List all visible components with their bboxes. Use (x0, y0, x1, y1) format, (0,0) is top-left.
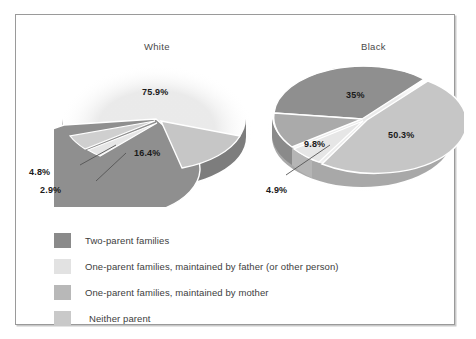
legend-swatch-father (54, 259, 71, 274)
pie-label-father-white: 2.9% (40, 185, 61, 195)
pie-title-black: Black (361, 41, 386, 52)
legend-swatch-neither (54, 311, 71, 326)
pie-label-mother-black: 50.3% (388, 130, 415, 140)
pie-chart-black (264, 57, 464, 207)
legend-item-father: One-parent families, maintained by fathe… (54, 253, 434, 279)
pie-chart-white (54, 57, 254, 207)
pie-label-father-black: 4.9% (266, 185, 287, 195)
pie-label-neither-black: 9.8% (304, 139, 325, 149)
legend-swatch-two-parent (54, 233, 71, 248)
pie-chart-figure: White (0, 0, 476, 339)
pie-label-two-parent-white: 75.9% (142, 87, 169, 97)
legend-label-father: One-parent families, maintained by fathe… (85, 261, 339, 272)
legend-item-neither: Neither parent (54, 305, 434, 331)
legend-label-neither: Neither parent (89, 313, 151, 324)
pie-label-two-parent-black: 35% (346, 90, 365, 100)
legend-swatch-mother (54, 285, 71, 300)
chart-legend: Two-parent families One-parent families,… (54, 227, 434, 331)
legend-item-mother: One-parent families, maintained by mothe… (54, 279, 434, 305)
pie-label-mother-white: 16.4% (134, 148, 161, 158)
legend-label-two-parent: Two-parent families (85, 235, 169, 246)
chart-frame: White (15, 14, 455, 325)
legend-item-two-parent: Two-parent families (54, 227, 434, 253)
legend-label-mother: One-parent families, maintained by mothe… (85, 287, 269, 298)
pie-title-white: White (144, 41, 170, 52)
pie-label-neither-white: 4.8% (29, 167, 50, 177)
